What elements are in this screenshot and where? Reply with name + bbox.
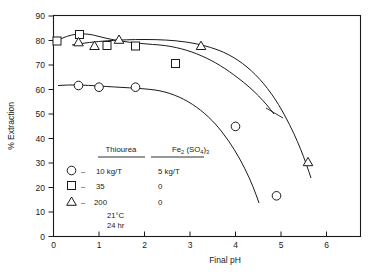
legend-header-thiourea: Thiourea: [106, 145, 137, 154]
legend-value-35: 0: [158, 182, 163, 191]
y-tick-label-30: 30: [36, 158, 46, 168]
markers-series-35: [53, 31, 180, 68]
legend-square-icon: [68, 182, 76, 190]
data-point: [231, 122, 240, 131]
data-point: [172, 60, 180, 68]
data-point: [114, 35, 124, 43]
data-point: [95, 83, 104, 92]
legend-label-200: 200: [94, 198, 108, 207]
data-point: [74, 81, 83, 90]
legend-triangle-icon: [67, 197, 77, 205]
data-point: [272, 192, 281, 201]
y-tick-label-10: 10: [36, 207, 46, 217]
legend-dash-2: –: [81, 182, 86, 191]
legend-row-35: – 35 0: [68, 182, 164, 192]
data-point: [76, 31, 84, 39]
data-point: [131, 83, 140, 92]
legend-fe-text: Fe: [172, 145, 181, 154]
annotation-temperature: 21°C: [107, 211, 124, 220]
y-tick-marks: [49, 16, 54, 237]
x-tick-label-6: 6: [324, 240, 329, 250]
data-point: [132, 42, 140, 50]
y-axis-title: % Extraction: [6, 102, 16, 150]
legend-label-10: 10 kg/T: [96, 167, 122, 176]
legend-value-10: 5 kg/T: [158, 167, 180, 176]
annotation-duration: 24 hr: [107, 221, 125, 230]
legend: Thiourea Fe2 (SO4)3 – 10 kg/T 5 kg/T – 3…: [67, 145, 209, 207]
condition-annotations: 21°C 24 hr: [107, 211, 125, 230]
y-axis: 0 10 20 30 40 50 60 70 80 90 % Extractio…: [6, 11, 54, 242]
y-tick-label-40: 40: [36, 134, 46, 144]
legend-circle-icon: [67, 166, 76, 175]
legend-value-200: 0: [158, 198, 163, 207]
y-tick-label-90: 90: [36, 11, 46, 21]
legend-dash-3: –: [81, 198, 86, 207]
legend-header-ferric-sulphate: Fe2 (SO4)3: [172, 145, 209, 155]
extraction-vs-ph-chart: 0 10 20 30 40 50 60 70 80 90 % Extractio…: [0, 0, 377, 275]
legend-so-text: (SO: [184, 145, 200, 154]
legend-row-10: – 10 kg/T 5 kg/T: [67, 166, 180, 175]
data-point: [53, 37, 61, 45]
y-tick-label-70: 70: [36, 60, 46, 70]
legend-label-35: 35: [96, 182, 105, 191]
y-tick-label-50: 50: [36, 109, 46, 119]
x-tick-marks: [54, 232, 327, 237]
x-axis-title: Final pH: [209, 255, 241, 265]
series-curves: [56, 34, 311, 203]
legend-row-200: – 200 0: [67, 197, 163, 207]
legend-outer-sub: 3: [206, 149, 209, 155]
x-tick-label-5: 5: [279, 240, 284, 250]
x-tick-label-4: 4: [233, 240, 238, 250]
curve-series-35: [56, 34, 274, 114]
x-tick-label-0: 0: [51, 240, 56, 250]
x-tick-label-1: 1: [97, 240, 102, 250]
y-tick-label-60: 60: [36, 85, 46, 95]
y-tick-label-0: 0: [40, 232, 45, 242]
y-tick-label-20: 20: [36, 183, 46, 193]
markers-series-10: [74, 81, 281, 200]
curve-series-35-tail: [266, 108, 283, 118]
x-tick-label-2: 2: [142, 240, 147, 250]
y-tick-label-80: 80: [36, 36, 46, 46]
x-tick-label-3: 3: [188, 240, 193, 250]
legend-dash-1: –: [81, 167, 86, 176]
data-point: [103, 42, 111, 50]
